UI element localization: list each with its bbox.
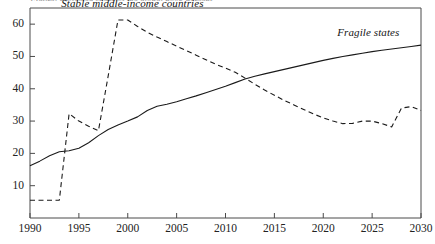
x-axis-tick-label: 2010 xyxy=(203,222,249,234)
x-axis-ticks xyxy=(30,213,421,218)
x-axis-tick-label: 2005 xyxy=(154,222,200,234)
x-axis-tick-label: 2015 xyxy=(251,222,297,234)
series-line-fragile-states xyxy=(30,45,421,166)
x-axis-tick-label: 2020 xyxy=(300,222,346,234)
y-axis-tick-label: 30 xyxy=(2,114,24,126)
axis-lines xyxy=(30,8,421,218)
y-axis-tick-label: 20 xyxy=(2,146,24,158)
x-axis-tick-label: 2030 xyxy=(398,222,435,234)
series-line-stable-middle-income xyxy=(30,20,421,200)
series-label-fragile-states: Fragile states xyxy=(337,26,399,38)
chart-figure: Figure: projected share of the global po… xyxy=(0,0,435,244)
x-axis-tick-label: 2000 xyxy=(105,222,151,234)
series-label-stable-middle-income: Stable middle-income countries xyxy=(61,0,203,9)
x-axis-tick-label: 1990 xyxy=(7,222,53,234)
y-axis-tick-label: 50 xyxy=(2,49,24,61)
x-axis-tick-label: 1995 xyxy=(56,222,102,234)
y-axis-tick-label: 60 xyxy=(2,17,24,29)
y-axis-ticks xyxy=(30,24,35,186)
y-axis-tick-label: 40 xyxy=(2,82,24,94)
y-axis-tick-label: 10 xyxy=(2,179,24,191)
x-axis-tick-label: 2025 xyxy=(349,222,395,234)
